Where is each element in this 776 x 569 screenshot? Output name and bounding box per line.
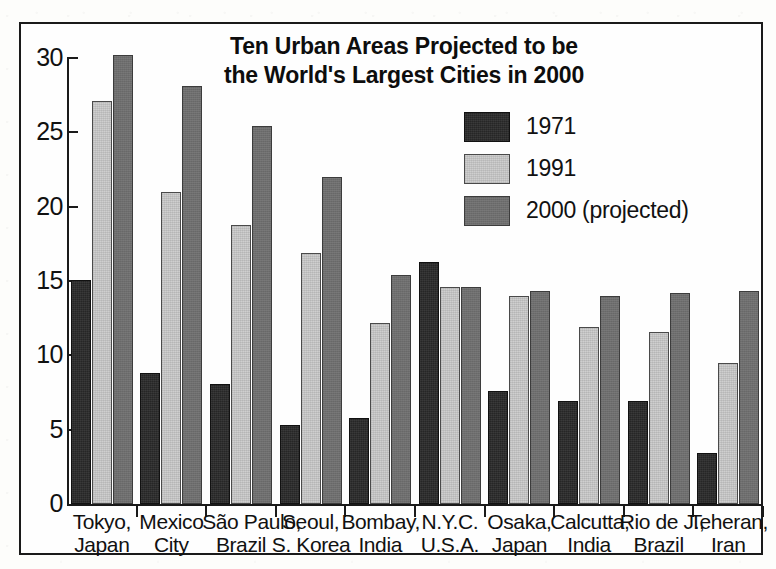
x-axis-label-line-2: India xyxy=(341,533,419,556)
bar-1991-6 xyxy=(509,296,529,504)
x-axis-category-labels: Tokyo,JapanMexicoCitySão Paulo,BrazilSeo… xyxy=(21,510,765,557)
x-axis-label-line-2: U.S.A. xyxy=(411,533,489,556)
bar-1971-2 xyxy=(210,384,230,504)
x-axis-label-line-1: Osaka, xyxy=(487,510,551,533)
bars-layer xyxy=(21,24,765,557)
bar-1971-3 xyxy=(280,425,300,504)
x-axis-label-8: Rio de J.,Brazil xyxy=(620,510,698,556)
bar-1971-1 xyxy=(140,373,160,504)
bar-1991-0 xyxy=(92,101,112,504)
x-axis-label-line-2: Japan xyxy=(481,533,559,556)
x-axis-label-4: Bombay,India xyxy=(341,510,419,556)
x-axis-label-line-2: Brazil xyxy=(620,533,698,556)
bar-2000-projected--1 xyxy=(182,86,202,504)
x-axis-label-7: Calcutta,India xyxy=(550,510,628,556)
x-axis-label-line-1: Calcutta, xyxy=(550,510,629,533)
x-axis-label-0: Tokyo,Japan xyxy=(63,510,141,556)
x-axis-label-line-2: S. Korea xyxy=(272,533,350,556)
chart-page: Ten Urban Areas Projected to be the Worl… xyxy=(0,0,776,569)
bar-2000-projected--8 xyxy=(670,293,690,504)
bar-1971-7 xyxy=(558,401,578,504)
x-axis-label-line-1: Tokyo, xyxy=(73,510,131,533)
bar-1991-1 xyxy=(161,192,181,504)
x-axis-label-6: Osaka,Japan xyxy=(481,510,559,556)
bar-2000-projected--7 xyxy=(600,296,620,504)
bar-1991-3 xyxy=(301,253,321,504)
bar-1991-8 xyxy=(649,332,669,504)
x-axis-label-line-2: Iran xyxy=(689,533,767,556)
bar-1991-4 xyxy=(370,323,390,504)
bar-2000-projected--2 xyxy=(252,126,272,504)
chart-frame: Ten Urban Areas Projected to be the Worl… xyxy=(19,22,763,555)
bar-2000-projected--0 xyxy=(113,55,133,504)
bar-1971-0 xyxy=(71,280,91,504)
x-axis-label-3: Seoul,S. Korea xyxy=(272,510,350,556)
x-axis-label-line-2: Japan xyxy=(63,533,141,556)
bar-1971-6 xyxy=(488,391,508,504)
x-axis-label-line-2: City xyxy=(133,533,211,556)
x-axis-label-line-1: N.Y.C. xyxy=(421,510,478,533)
x-axis-label-line-2: Brazil xyxy=(202,533,280,556)
x-axis-label-5: N.Y.C.U.S.A. xyxy=(411,510,489,556)
x-axis-label-line-1: Seoul, xyxy=(282,510,339,533)
plot-area: Ten Urban Areas Projected to be the Worl… xyxy=(21,24,765,557)
x-axis-label-line-1: Mexico xyxy=(139,510,203,533)
bar-1991-2 xyxy=(231,225,251,504)
bar-1971-4 xyxy=(349,418,369,504)
bar-1991-9 xyxy=(718,363,738,504)
x-axis-label-line-1: Bombay, xyxy=(341,510,420,533)
x-axis-label-1: MexicoCity xyxy=(133,510,211,556)
bar-1991-5 xyxy=(440,287,460,504)
bar-1971-5 xyxy=(419,262,439,504)
x-axis-label-9: Teheran,Iran xyxy=(689,510,767,556)
bar-1971-9 xyxy=(697,453,717,504)
bar-1991-7 xyxy=(579,327,599,504)
x-axis-label-line-2: India xyxy=(550,533,628,556)
bar-2000-projected--3 xyxy=(322,177,342,504)
x-axis-label-2: São Paulo,Brazil xyxy=(202,510,280,556)
bar-2000-projected--5 xyxy=(461,287,481,504)
bar-2000-projected--9 xyxy=(739,291,759,504)
x-axis-label-line-1: Teheran, xyxy=(689,510,768,533)
bar-2000-projected--6 xyxy=(530,291,550,504)
bar-1971-8 xyxy=(628,401,648,504)
bar-2000-projected--4 xyxy=(391,275,411,504)
